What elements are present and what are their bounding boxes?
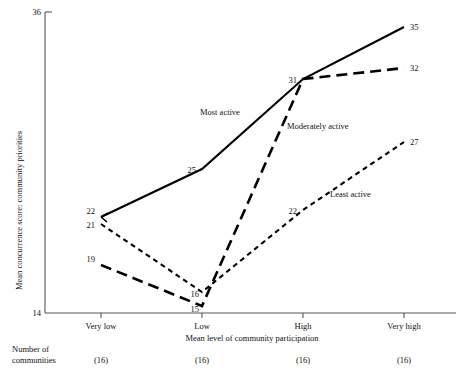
point-label-moderate-low: 15	[191, 304, 200, 314]
x-tick-label-high: High	[295, 321, 313, 331]
point-label-moderate-very-low: 19	[87, 254, 96, 264]
x-axis-title: Mean level of community participation	[185, 333, 319, 343]
point-label-least-high: 22	[289, 206, 298, 216]
footnote-label-line2: communities	[12, 355, 56, 365]
footnote-value-high: (16)	[296, 355, 310, 365]
series-annotation-most-active: Most active	[200, 107, 240, 117]
line-chart-svg: 36 14 Mean concurrence score: community …	[0, 0, 462, 374]
x-tick-label-very-high: Very high	[387, 321, 421, 331]
x-tick-label-low: Low	[194, 321, 210, 331]
point-label-most-very-high: 35	[410, 22, 419, 32]
footnote-value-very-low: (16)	[94, 355, 108, 365]
point-label-most-very-low: 22	[87, 206, 96, 216]
series-line-least-active	[101, 142, 404, 292]
series-line-moderately-active	[101, 68, 404, 306]
chart-figure: 36 14 Mean concurrence score: community …	[0, 0, 462, 374]
y-tick-label-min: 14	[33, 308, 42, 318]
footnote-value-very-high: (16)	[397, 355, 411, 365]
series-annotation-least-active: Least active	[330, 189, 371, 199]
point-label-least-very-low: 21	[87, 220, 96, 230]
series-annotation-moderately-active: Moderately active	[287, 121, 349, 131]
footnote-value-low: (16)	[195, 355, 209, 365]
junction-mark-very-low	[101, 213, 108, 222]
point-label-most-high: 31	[289, 75, 298, 85]
y-axis-title: Mean concurrence score: community priori…	[14, 131, 24, 290]
point-label-least-very-high: 27	[410, 137, 419, 147]
point-label-moderate-very-high: 32	[410, 63, 419, 73]
point-label-most-low: 25	[188, 165, 197, 175]
footnote-label-line1: Number of	[12, 344, 49, 354]
point-label-least-low: 16	[191, 289, 200, 299]
x-tick-label-very-low: Very low	[86, 321, 118, 331]
y-tick-label-max: 36	[33, 7, 42, 17]
